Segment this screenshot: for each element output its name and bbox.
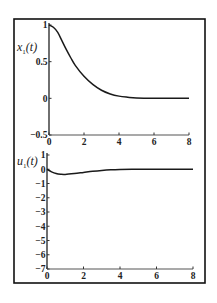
y-axis-label: u1(t) (17, 154, 38, 170)
y-tick-label: −6 (35, 250, 45, 260)
y-axis-label: x1(t) (16, 40, 37, 56)
y-tick-label: −2 (35, 193, 45, 203)
y-tick-label: 0 (41, 165, 46, 175)
subplot-2: 0246810−1−2−3−4−5−6−7u1(t) (17, 150, 196, 281)
y-tick-label: 1 (41, 150, 46, 160)
figure: 0246810.50−0.5x1(t)0246810−1−2−3−4−5−6−7… (0, 0, 217, 303)
y-tick-label: −0.5 (30, 130, 48, 140)
data-line (47, 169, 193, 174)
x-tick-label: 8 (187, 137, 192, 147)
x-tick-label: 6 (152, 137, 157, 147)
y-tick-label: −1 (35, 179, 45, 189)
y-tick-label: 1 (43, 20, 48, 30)
x-tick-label: 2 (82, 137, 87, 147)
y-tick-label: −5 (35, 236, 45, 246)
x-tick-label: 4 (118, 271, 123, 281)
subplot-1: 0246810.50−0.5x1(t) (16, 20, 192, 147)
y-tick-label: 0.5 (36, 57, 48, 67)
x-tick-label: 2 (81, 271, 86, 281)
x-tick-label: 6 (154, 271, 159, 281)
x-tick-label: 8 (191, 271, 196, 281)
y-tick-label: −3 (35, 207, 45, 217)
y-tick-label: 0 (43, 94, 48, 104)
y-tick-label: −7 (35, 264, 45, 274)
data-line (49, 25, 189, 98)
x-tick-label: 4 (117, 137, 122, 147)
y-tick-label: −4 (35, 222, 45, 232)
